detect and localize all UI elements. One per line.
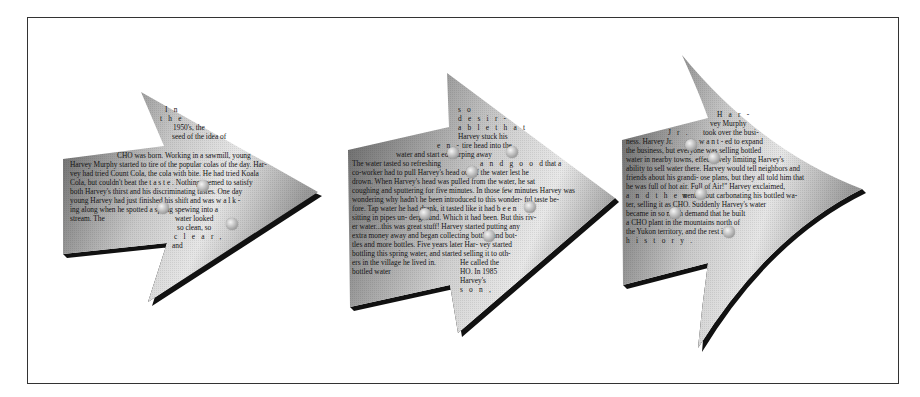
arrow-2-text-line: a n d g o o d [480, 159, 545, 168]
arrow-2-text-line: er water...this was great stuff! Harvey … [352, 222, 520, 231]
arrow-3-text-line: ness. Harvey Jr. [626, 137, 673, 146]
arrow-2-text-line: s o n , [460, 285, 493, 294]
arrow-1-text-line: water looked [175, 214, 213, 223]
arrow-1-text-line: stream. The [70, 214, 105, 223]
arrow-2-text-line: bottling this spring water, and started … [352, 249, 511, 258]
arrow-1-text-line: so clean, so [177, 223, 211, 232]
arrow-1-text-line: c l e a r , [174, 232, 224, 241]
arrow-1-text-line: Harvey Murphy started to tire of the pop… [70, 160, 267, 169]
arrow-1-text-line: young Harvey had just finished his shift… [70, 196, 240, 205]
bubble-icon [157, 202, 169, 214]
bubble-icon [685, 139, 697, 151]
arrow-2-text-line: d e s i r - [458, 114, 508, 123]
bubble-icon [447, 147, 459, 159]
arrow-2-text-line: sitting in pipes un- derground. Which it… [352, 213, 536, 222]
arrow-2-text-line: a b l e t h a t [458, 123, 527, 132]
arrow-3-text-line: h i s t o r y . [626, 236, 694, 245]
arrow-3-text-line: took over the busi- [703, 128, 759, 137]
arrow-3-text-line: became in so much demand that he built [626, 209, 745, 218]
arrow-2-text-line: The water tasted so refreshing [352, 159, 441, 168]
bubble-icon [723, 226, 735, 238]
arrow-2-text-line: water and start ed slurping away [396, 150, 492, 159]
arrow-2-text-line: fore. Tap water he had drank, it tasted … [352, 204, 516, 213]
arrow-1-text-line: t h e [160, 114, 184, 123]
arrow-3-text-line: the Yukon territory, and the rest is [626, 227, 726, 236]
arrow-1-text-line: both Harvey's thirst and his discriminat… [70, 187, 242, 196]
arrow-2-text-line: Harvey stuck his [458, 132, 508, 141]
arrow-3-text-line: friends about his grandi- ose plans, but… [626, 173, 804, 182]
bubble-icon [506, 146, 518, 158]
arrow-2-text-line: that a [545, 159, 561, 168]
arrow-1-text-line: CHO was born. Working in a sawmill, youn… [117, 151, 251, 160]
bubble-icon [466, 166, 478, 178]
arrow-1-text-line: and [172, 241, 183, 250]
arrow-1-text-line: 1950's, the [173, 123, 205, 132]
arrow-3-text-line: J r . [668, 128, 690, 137]
arrow-3-text-line: ability to sell water there. Harvey woul… [626, 164, 800, 173]
bubble-icon [695, 188, 707, 200]
arrow-3-text-line: w a n t - ed to expand [699, 137, 763, 146]
bubble-icon [197, 180, 209, 192]
arrow-3-text-line: ter, selling it as CHO. Suddenly Harvey'… [626, 200, 766, 209]
arrow-1-text-line: ing along when he spotted a spring spewi… [70, 205, 218, 214]
arrow-2-text-line: bottled water [352, 267, 391, 276]
bubble-icon [524, 201, 536, 213]
arrow-2-text-line: Harvey's [460, 276, 486, 285]
bubble-icon [226, 218, 238, 230]
bubble-icon [419, 208, 431, 220]
arrow-1-text-line: seed of the idea of [172, 132, 226, 141]
bubble-icon [708, 152, 720, 164]
arrow-3-text-line: water in nearby towns, effec- tively lim… [626, 155, 784, 164]
arrow-2-text-line: co-worker had to pull Harvey's head out … [352, 168, 529, 177]
arrow-3-text-line: a CHO plant in the mountains north of [626, 218, 740, 227]
arrow-3-text-line: vey Murphy [710, 119, 746, 128]
arrow-2-text-line: coughing and sputtering for five minutes… [352, 186, 575, 195]
arrow-1-text-line: vey had tried Count Cola, the cola with … [70, 169, 259, 178]
arrow-2-text-line: HO. In 1985 [460, 267, 497, 276]
arrow-2-text-line: drown. When Harvey's head was pulled fro… [352, 177, 535, 186]
arrow-1-text-line: I n [165, 105, 180, 114]
arrow-2-text-line: He called the [460, 258, 499, 267]
arrow-3-text-line: H a r - [717, 110, 751, 119]
arrow-3-text-line: a n d t h e n [626, 191, 689, 200]
arrow-2-text-line: ers in the village he lived in. [352, 258, 436, 267]
arrow-1-text-line: Cola, but couldn't beat the t a s t e . … [70, 178, 253, 187]
arrow-2-text-line: s o [458, 105, 473, 114]
bubble-icon [669, 207, 681, 219]
bubble-icon [483, 230, 495, 242]
arrow-2-text-line: tire head into the [462, 141, 512, 150]
